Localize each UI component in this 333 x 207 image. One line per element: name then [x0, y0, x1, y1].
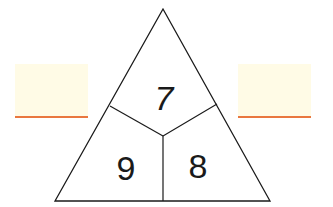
- top-number: 7: [155, 79, 175, 117]
- bottom-left-number: 9: [117, 149, 136, 187]
- bottom-right-number: 8: [189, 147, 208, 185]
- number-triangle: 7 9 8: [0, 0, 333, 207]
